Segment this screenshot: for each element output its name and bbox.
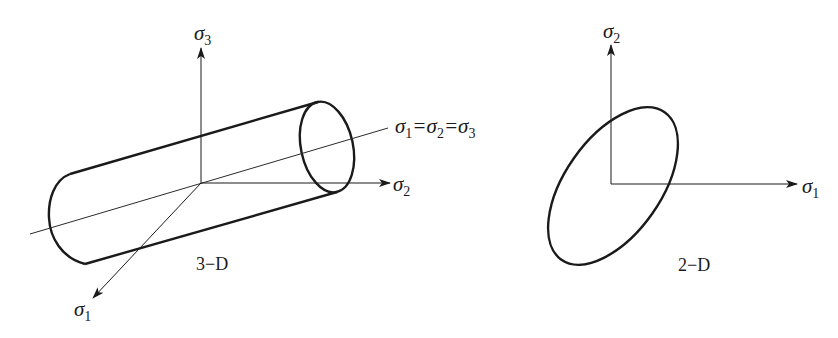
hydrostatic-axis-line — [30, 128, 388, 234]
sigma3-label: σ3 — [194, 21, 211, 48]
yield-cylinder — [49, 97, 362, 264]
cylinder-top-edge — [70, 102, 318, 174]
hydrostatic-line-label: σ1=σ2=σ3 — [395, 114, 475, 141]
sigma2-label-2d: σ2 — [603, 19, 620, 46]
sigma2-label-3d: σ2 — [393, 172, 410, 199]
panel-2d: σ2 σ1 2−D — [522, 19, 819, 287]
sigma1-label-3d: σ1 — [74, 297, 91, 324]
yield-surface-figure: σ3 σ2 σ1 σ1=σ2=σ3 3−D σ2 σ1 2−D — [0, 0, 838, 338]
caption-3d: 3−D — [196, 254, 228, 274]
cylinder-right-cap — [292, 97, 362, 198]
sigma1-axis-3d — [93, 183, 201, 298]
caption-2d: 2−D — [678, 255, 710, 275]
yield-ellipse — [522, 85, 704, 288]
panel-3d: σ3 σ2 σ1 σ1=σ2=σ3 3−D — [30, 21, 475, 324]
sigma1-label-2d: σ1 — [802, 174, 819, 201]
